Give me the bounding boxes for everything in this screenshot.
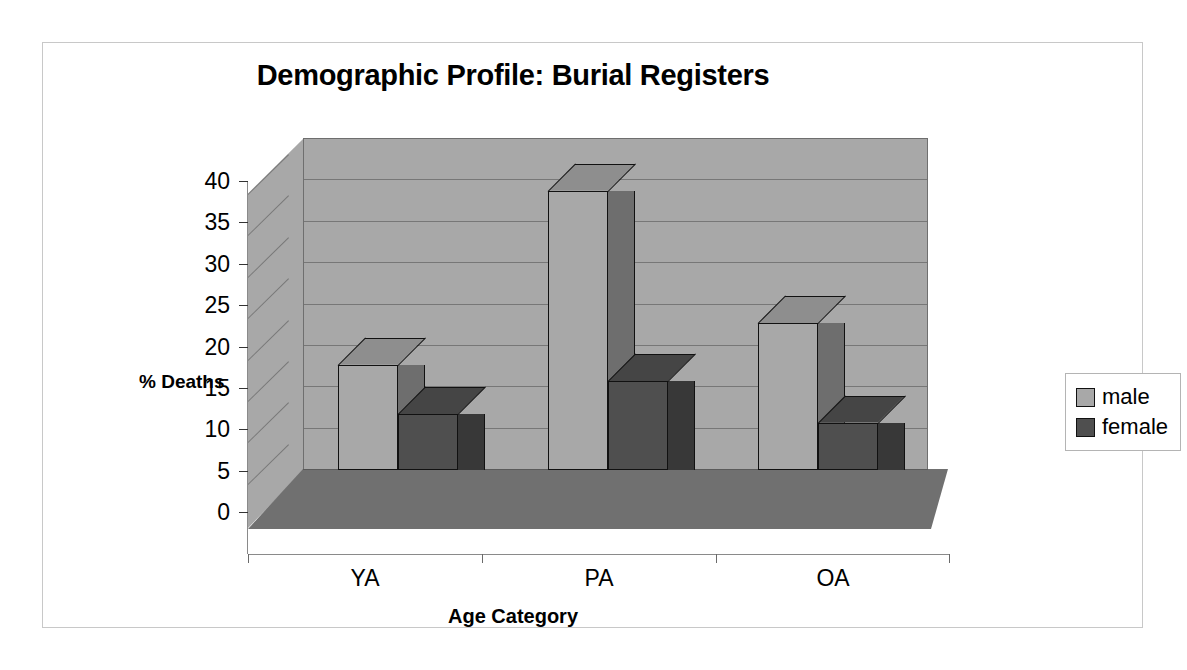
y-tick-label-10: 10 (170, 416, 230, 443)
bar-front-face (338, 365, 398, 471)
y-tick-5 (239, 471, 248, 472)
y-tick-20 (239, 347, 248, 348)
x-axis-line (248, 554, 950, 555)
bar-pa-male[interactable] (548, 164, 608, 470)
chart-legend[interactable]: male female (1065, 373, 1181, 451)
chart-frame: Demographic Profile: Burial Registers (42, 42, 1143, 628)
y-axis-tick-labels: 40 35 30 25 20 15 10 5 0 (170, 43, 230, 670)
x-tick-label-pa: PA (529, 565, 669, 592)
gridline-40 (304, 138, 928, 139)
y-tick-15 (239, 388, 248, 389)
plot-area (248, 138, 948, 538)
y-tick-25 (239, 305, 248, 306)
y-tick-label-25: 25 (170, 292, 230, 319)
y-tick-0 (239, 512, 248, 513)
bar-front-face (608, 381, 668, 470)
bar-side-face (458, 414, 485, 470)
y-tick-40 (239, 181, 248, 182)
y-tick-label-5: 5 (170, 458, 230, 485)
y-tick-label-40: 40 (170, 168, 230, 195)
bar-oa-male[interactable] (758, 296, 818, 470)
plot-floor (248, 469, 948, 529)
x-axis-title: Age Category (43, 605, 983, 628)
bar-front-face (758, 323, 818, 470)
bar-ya-male[interactable] (338, 338, 398, 471)
x-tick-ya-pa (482, 554, 483, 563)
bar-oa-female[interactable] (818, 396, 878, 471)
bar-front-face (548, 191, 608, 470)
bar-ya-female[interactable] (398, 387, 458, 470)
legend-swatch-female-icon (1076, 418, 1095, 437)
x-tick-right (949, 554, 950, 563)
y-tick-30 (239, 264, 248, 265)
y-tick-label-20: 20 (170, 334, 230, 361)
y-axis-title: % Deaths (139, 371, 225, 393)
y-tick-label-0: 0 (170, 499, 230, 526)
x-tick-label-oa: OA (763, 565, 903, 592)
bar-front-face (818, 423, 878, 471)
legend-swatch-male-icon (1076, 388, 1095, 407)
y-axis-line (247, 181, 248, 554)
y-tick-10 (239, 429, 248, 430)
x-tick-label-ya: YA (295, 565, 435, 592)
legend-label-male: male (1102, 386, 1150, 408)
bar-side-face (878, 423, 905, 471)
y-tick-35 (239, 222, 248, 223)
y-tick-label-35: 35 (170, 209, 230, 236)
legend-label-female: female (1102, 416, 1168, 438)
y-tick-label-30: 30 (170, 251, 230, 278)
legend-item-male[interactable]: male (1076, 386, 1170, 408)
bar-side-face (668, 381, 695, 470)
legend-item-female[interactable]: female (1076, 416, 1170, 438)
bar-pa-female[interactable] (608, 354, 668, 470)
x-tick-left (248, 554, 249, 563)
x-tick-pa-oa (716, 554, 717, 563)
bar-front-face (398, 414, 458, 470)
